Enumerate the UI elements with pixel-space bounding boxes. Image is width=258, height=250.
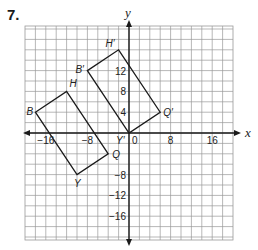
axes: xy	[23, 5, 251, 246]
vertex-label: Y	[74, 178, 82, 189]
y-tick-label: 8	[120, 86, 126, 97]
vertex-label: B	[26, 106, 33, 117]
y-tick-label: −16	[109, 211, 126, 222]
y-tick-label: 4	[120, 107, 126, 118]
vertex-label: Q′	[163, 107, 174, 118]
vertex-label: Q	[112, 149, 120, 160]
x-tick-label: 0	[132, 135, 138, 146]
x-tick-label: −8	[82, 135, 94, 146]
vertex-label: B′	[75, 64, 85, 75]
x-axis-arrow-right-icon	[234, 130, 241, 136]
vertex-label: H	[70, 78, 78, 89]
vertex-label: Y′	[116, 135, 126, 146]
vertex-label: H′	[106, 38, 116, 49]
coordinate-plane: xy −16−808161284−8−12−16 BHQYB′H′Q′Y′	[0, 0, 258, 250]
y-tick-label: −8	[115, 170, 127, 181]
x-tick-label: 16	[207, 135, 219, 146]
y-axis-label: y	[123, 5, 131, 20]
y-tick-label: −12	[109, 190, 126, 201]
y-axis-arrow-up-icon	[126, 20, 132, 27]
x-tick-label: 8	[168, 135, 174, 146]
x-axis-arrow-left-icon	[23, 130, 30, 136]
y-tick-label: 12	[115, 66, 127, 77]
y-axis-arrow-down-icon	[126, 239, 132, 246]
x-axis-label: x	[244, 125, 251, 140]
